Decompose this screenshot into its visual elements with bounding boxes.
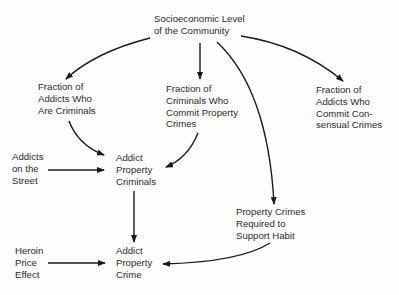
node-label-line: Property Crimes <box>236 206 305 218</box>
node-fraction-addicts-consensual: Fraction of Addicts Who Commit Con- sens… <box>316 84 382 131</box>
node-label-line: Addict <box>116 245 152 257</box>
node-label-line: Addicts Who <box>316 96 382 108</box>
node-label-line: sensual Crimes <box>316 119 382 131</box>
node-fraction-criminals-property: Fraction of Criminals Who Commit Propert… <box>166 83 238 130</box>
edge-socio-to-frac-consensual <box>241 36 343 81</box>
node-label-line: Fraction of <box>166 83 238 95</box>
node-label-line: Required to <box>236 218 305 230</box>
edge-required-to-crime <box>163 243 270 264</box>
node-label-line: Fraction of <box>38 81 96 93</box>
node-label-line: Price <box>15 257 43 269</box>
node-label-line: Criminals Who <box>166 95 238 107</box>
node-label-line: Commit Property <box>166 107 238 119</box>
node-label-line: Heroin <box>15 245 43 257</box>
node-label-line: of the Community <box>154 25 245 37</box>
edge-socio-to-frac-addicts-criminals <box>66 38 150 79</box>
node-label-line: Crime <box>116 269 152 281</box>
node-addict-property-criminals: Addict Property Criminals <box>116 152 156 187</box>
node-label-line: Addict <box>116 152 156 164</box>
node-label-line: Addicts Who <box>38 93 96 105</box>
node-label-line: Property <box>116 164 156 176</box>
node-label-line: Commit Con- <box>316 108 382 120</box>
node-label-line: Socioeconomic Level <box>154 13 245 25</box>
node-addicts-on-street: Addicts on the Street <box>12 151 43 186</box>
node-addict-property-crime: Addict Property Crime <box>116 245 152 280</box>
node-label-line: Support Habit <box>236 230 305 242</box>
node-label-line: Property <box>116 257 152 269</box>
node-label-line: Are Criminals <box>38 105 96 117</box>
node-socioeconomic-level: Socioeconomic Level of the Community <box>154 13 245 37</box>
edge-frac-addicts-to-apc <box>69 121 104 155</box>
causal-diagram: Socioeconomic Level of the Community Fra… <box>0 0 399 295</box>
node-label-line: Street <box>12 175 43 187</box>
node-label-line: Effect <box>15 269 43 281</box>
node-label-line: Addicts <box>12 151 43 163</box>
edge-frac-criminals-to-apc <box>166 133 198 167</box>
node-label-line: on the <box>12 163 43 175</box>
node-label-line: Crimes <box>166 118 238 130</box>
node-label-line: Fraction of <box>316 84 382 96</box>
node-label-line: Criminals <box>116 176 156 188</box>
edges-layer <box>0 0 399 295</box>
node-fraction-addicts-criminals: Fraction of Addicts Who Are Criminals <box>38 81 96 116</box>
node-heroin-price-effect: Heroin Price Effect <box>15 245 43 280</box>
node-property-crimes-required: Property Crimes Required to Support Habi… <box>236 206 305 241</box>
